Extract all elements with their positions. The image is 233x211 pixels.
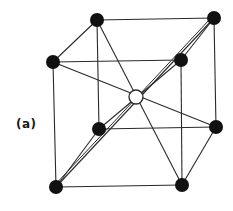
bcc-unit-cell bbox=[0, 0, 233, 211]
center-atom bbox=[129, 90, 143, 104]
bcc-diagram: (a) bbox=[0, 0, 233, 211]
cube-edge bbox=[99, 127, 216, 129]
cube-edge bbox=[53, 60, 181, 62]
cube-edge bbox=[181, 60, 182, 185]
diagram-label: (a) bbox=[16, 117, 37, 131]
cube-edge bbox=[53, 62, 56, 187]
cube-edge bbox=[97, 18, 214, 20]
corner-atom bbox=[46, 55, 60, 69]
cube-edge bbox=[214, 18, 216, 127]
corner-atom bbox=[90, 13, 104, 27]
cube-edge bbox=[56, 185, 182, 187]
corner-atom bbox=[175, 178, 189, 192]
cube-edge bbox=[181, 18, 214, 60]
corner-atom bbox=[207, 11, 221, 25]
corner-atom bbox=[92, 122, 106, 136]
corner-atom bbox=[174, 53, 188, 67]
corner-atom bbox=[209, 120, 223, 134]
cube-edge bbox=[56, 129, 99, 187]
cube-edge bbox=[97, 20, 99, 129]
cube-edge bbox=[53, 20, 97, 62]
corner-atom bbox=[49, 180, 63, 194]
cube-edge bbox=[182, 127, 216, 185]
